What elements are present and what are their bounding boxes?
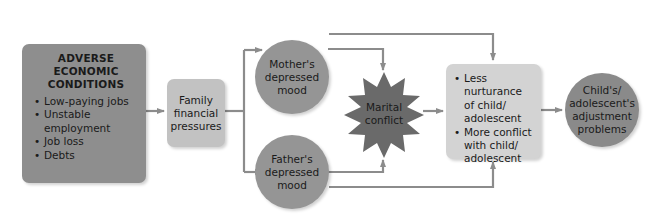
adverse-bullet: Low-paying jobs xyxy=(34,95,138,108)
adverse-bullet: Debts xyxy=(34,149,138,162)
adverse-bullet-list: Low-paying jobs Unstable employment Job … xyxy=(34,95,138,162)
child-adjustment-problems-node: Child's/ adolescent's adjustment problem… xyxy=(565,73,639,147)
adverse-bullet: Unstable employment xyxy=(34,108,138,135)
adverse-title: ADVERSE ECONOMIC CONDITIONS xyxy=(34,52,138,91)
marital-conflict-label: Marital conflict xyxy=(354,101,414,127)
parenting-bullet: More conflict with child/ adolescent xyxy=(454,126,535,166)
fathers-depressed-mood-node: Father's depressed mood xyxy=(255,135,329,209)
family-stress-diagram: ADVERSE ECONOMIC CONDITIONS Low-paying j… xyxy=(0,0,657,219)
parenting-bullet: Less nurturance of child/ adolescent xyxy=(454,72,535,126)
adverse-bullet: Job loss xyxy=(34,135,138,148)
adverse-economic-conditions-box: ADVERSE ECONOMIC CONDITIONS Low-paying j… xyxy=(22,44,146,183)
mothers-depressed-mood-node: Mother's depressed mood xyxy=(255,40,329,114)
parenting-outcomes-box: Less nurturance of child/ adolescent Mor… xyxy=(446,64,541,159)
parenting-bullet-list: Less nurturance of child/ adolescent Mor… xyxy=(454,72,535,166)
family-financial-pressures-box: Family financial pressures xyxy=(167,79,225,147)
